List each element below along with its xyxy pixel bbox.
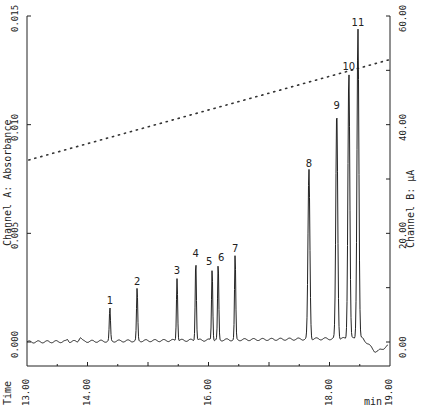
y-tick-0.000: 0.000 (10, 331, 20, 358)
peak-label-6: 6 (218, 252, 224, 263)
peak-label-5: 5 (206, 256, 212, 267)
x-tick-16.00: 16.00 (203, 379, 213, 406)
x-tick-19.00: 19.00 (384, 379, 394, 406)
peak-label-10: 10 (342, 61, 355, 72)
peak-label-3: 3 (174, 265, 180, 276)
y2-tick-0.00: 0.00 (398, 336, 408, 358)
peak-label-8: 8 (306, 158, 312, 169)
x-tick-18.00: 18.00 (324, 379, 334, 406)
peak-label-4: 4 (193, 248, 199, 259)
time-label: Time (2, 381, 13, 405)
min-label: min (364, 396, 382, 407)
y2-axis-label: Channel B: µA (405, 170, 416, 248)
y2-tick-40.00: 40.00 (398, 114, 408, 141)
peak-label-2: 2 (134, 276, 140, 287)
y-tick-0.015: 0.015 (10, 5, 20, 32)
peak-label-7: 7 (232, 243, 238, 254)
y-axis-label: Channel A: Absorbance (2, 120, 13, 246)
chromatogram-trace (27, 29, 388, 352)
x-tick-13.00: 13.00 (21, 379, 31, 406)
y2-tick-60.00: 60.00 (398, 5, 408, 32)
x-tick-14.00: 14.00 (82, 379, 92, 406)
peak-label-1: 1 (107, 295, 113, 306)
peak-label-11: 11 (352, 17, 365, 28)
chromatogram-plot: 1234567891011 (0, 0, 422, 411)
peak-label-9: 9 (334, 100, 340, 111)
